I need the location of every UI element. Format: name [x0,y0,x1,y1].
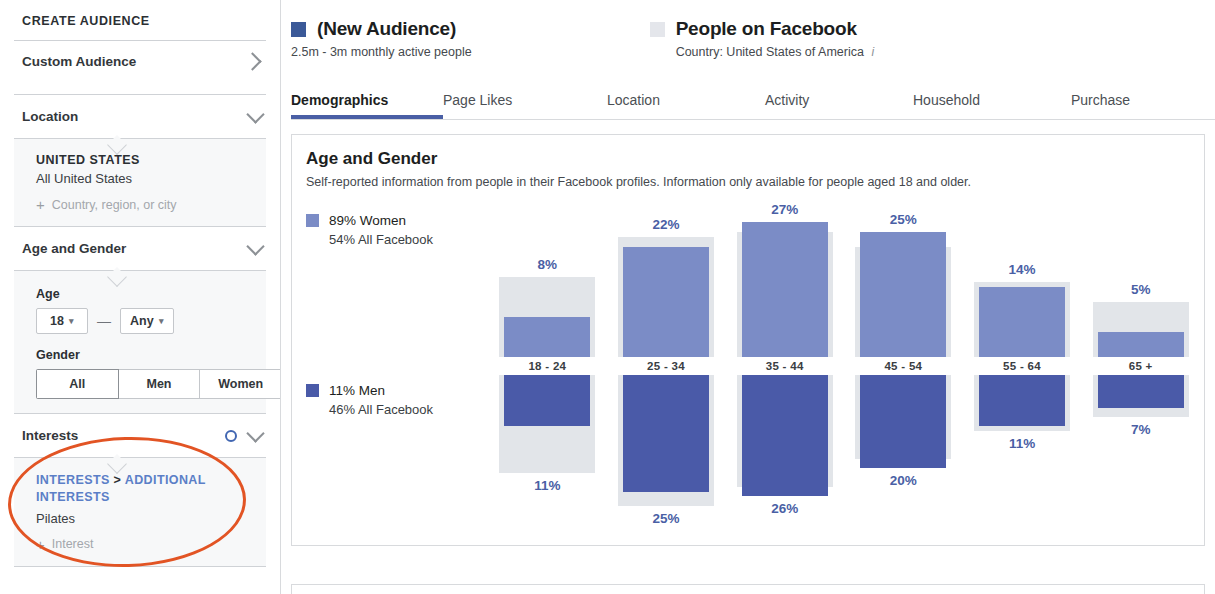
custom-audience-label: Custom Audience [22,54,136,69]
plus-icon: + [36,537,45,552]
tab-purchase[interactable]: Purchase [1071,92,1130,119]
gender-option-women[interactable]: Women [199,369,281,399]
gender-segmented-control: All Men Women [36,369,281,399]
men-bar[interactable] [623,375,709,492]
men-bar[interactable] [979,375,1065,426]
interests-panel: INTERESTS > ADDITIONAL INTERESTS Pilates… [14,457,266,567]
breadcrumb-root: INTERESTS [36,473,110,487]
add-location-input[interactable]: + Country, region, or city [36,197,244,212]
gender-field-label: Gender [36,348,244,362]
selected-audience-block: (New Audience) 2.5m - 3m monthly active … [291,18,472,59]
target-dot-icon[interactable] [225,430,237,442]
tab-demographics[interactable]: Demographics [291,92,443,119]
age-min-value: 18 [50,314,64,328]
women-bar[interactable] [979,287,1065,357]
men-half: 25% [607,375,726,525]
gender-option-all[interactable]: All [36,369,119,399]
tab-activity[interactable]: Activity [765,92,913,119]
location-panel: UNITED STATES All United States + Countr… [14,138,266,227]
women-bar-label: 8% [499,257,595,272]
chevron-down-icon [246,424,264,442]
women-bar-label: 22% [618,217,714,232]
women-bar-label: 25% [855,212,951,227]
chart-column: 25%45 - 5420% [844,197,963,527]
audience-reach: 2.5m - 3m monthly active people [291,45,472,59]
men-bar[interactable] [1098,375,1184,408]
men-bar-label: 11% [974,436,1070,451]
legend-women-pct: 89% Women [329,213,406,228]
sidebar-item-age-gender[interactable]: Age and Gender [0,227,280,270]
sidebar-item-location[interactable]: Location [0,95,280,138]
men-bar[interactable] [504,375,590,426]
interest-value[interactable]: Pilates [36,511,244,526]
women-bar[interactable] [504,317,590,357]
comparison-color-swatch-icon [650,22,665,37]
gender-option-men[interactable]: Men [118,369,201,399]
women-bar[interactable] [742,222,828,357]
men-half: 11% [963,375,1082,525]
age-gender-card: Age and Gender Self-reported information… [291,134,1205,546]
card-title: Age and Gender [292,135,1204,169]
info-icon[interactable]: i [871,45,874,59]
breadcrumb-separator: > [110,473,125,487]
men-half: 7% [1081,375,1200,525]
tab-bar-divider [291,119,1215,120]
location-panel-wrap: UNITED STATES All United States + Countr… [14,138,266,227]
age-gender-bar-chart: 8%18 - 2411%22%25 - 3425%27%35 - 4426%25… [488,197,1200,527]
audience-color-swatch-icon [291,22,306,37]
age-gender-panel-wrap: Age 18 ▾ — Any ▾ Gender All Men W [14,270,266,414]
age-min-stepper[interactable]: 18 ▾ [36,308,88,334]
comparison-name: People on Facebook [676,18,857,40]
age-gender-icons [249,240,262,257]
age-bucket-label: 45 - 54 [844,360,963,372]
tab-location[interactable]: Location [607,92,765,119]
legend-men-pct: 11% Men [329,383,385,398]
age-bucket-label: 65 + [1081,360,1200,372]
age-bucket-label: 18 - 24 [488,360,607,372]
chart-column: 14%55 - 6411% [963,197,1082,527]
men-bar-label: 11% [499,478,595,493]
age-max-value: Any [130,314,154,328]
chevron-down-icon [246,237,264,255]
legend-women-row: 89% Women [306,213,433,228]
tab-household[interactable]: Household [913,92,1071,119]
main-content: (New Audience) 2.5m - 3m monthly active … [281,0,1215,594]
men-bar[interactable] [742,375,828,496]
men-bar-label: 20% [855,473,951,488]
age-field-label: Age [36,287,244,301]
chart-columns: 8%18 - 2411%22%25 - 3425%27%35 - 4426%25… [488,197,1200,527]
custom-audience-icons [246,55,262,68]
women-bar[interactable] [860,232,946,357]
men-bar[interactable] [860,375,946,468]
create-audience-sidebar: CREATE AUDIENCE Custom Audience Location… [0,0,281,594]
sidebar-item-interests[interactable]: Interests [0,414,280,457]
add-interest-placeholder: Interest [52,537,94,551]
sidebar-title: CREATE AUDIENCE [0,0,280,28]
tab-page-likes[interactable]: Page Likes [443,92,607,119]
men-bar-label: 25% [618,511,714,526]
legend-women: 89% Women 54% All Facebook [306,213,433,247]
selected-audience-title: (New Audience) [291,18,472,40]
legend-women-swatch-icon [306,214,319,227]
chart-column: 27%35 - 4426% [725,197,844,527]
add-location-placeholder: Country, region, or city [52,198,177,212]
add-interest-input[interactable]: + Interest [36,537,244,552]
audience-header: (New Audience) 2.5m - 3m monthly active … [281,0,1215,59]
women-half: 5%65 + [1081,197,1200,357]
comparison-country: Country: United States of America i [650,45,874,59]
legend-men-benchmark: 46% All Facebook [329,402,433,417]
location-country-value[interactable]: All United States [36,171,244,186]
interests-icons [225,427,262,444]
interests-breadcrumb[interactable]: INTERESTS > ADDITIONAL INTERESTS [36,472,244,506]
location-label: Location [22,109,78,124]
age-max-stepper[interactable]: Any ▾ [120,308,174,334]
plus-icon: + [36,197,45,212]
women-bar[interactable] [623,247,709,357]
age-range-controls: 18 ▾ — Any ▾ [36,308,244,334]
women-half: 22%25 - 34 [607,197,726,357]
legend-men-row: 11% Men [306,383,433,398]
women-bar[interactable] [1098,332,1184,357]
age-gender-panel: Age 18 ▾ — Any ▾ Gender All Men W [14,270,266,414]
audience-insights-page: CREATE AUDIENCE Custom Audience Location… [0,0,1215,594]
sidebar-item-custom-audience[interactable]: Custom Audience [0,41,280,82]
